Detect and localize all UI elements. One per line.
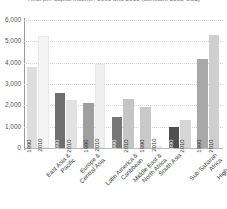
y-axis-tick-label: 0 [17,145,21,151]
y-axis-tick-label: 3,000 [5,81,21,87]
gridline [24,41,223,42]
chart-title: Real per capita income, 1990 and 2010 (c… [28,0,200,2]
bar: 2010 [152,146,163,148]
gridline [24,84,223,85]
bar-year-label: 1990 [54,139,60,152]
bar: 1990 [83,103,94,148]
bar: 1990 [55,93,66,148]
category-label: East Asia &Pacific [45,152,76,183]
bar: 2010 [95,64,106,148]
bar-year-label: 1990 [26,139,32,152]
bar: 1990 [112,117,123,148]
y-axis-tick-label: 6,000 [5,17,21,23]
bar: 1990 [140,107,151,148]
bar: 1990 [197,59,208,148]
gridline [24,20,223,21]
bar-year-label: 2010 [37,138,43,151]
category-label: Europe &Central Asia [74,152,107,185]
category-label: Sub-SaharanAfrica [188,152,223,187]
y-axis-tick-label: 5,000 [5,38,21,44]
bar-year-label: 2010 [94,138,100,151]
bar: 2010 [123,99,134,148]
bar-year-label: 1990 [139,139,145,152]
bar-year-label: 2010 [123,139,129,152]
bar: 2010 [209,35,220,148]
bar-year-label: 1990 [83,139,89,152]
bar-year-label: 1990 [196,139,202,152]
bar: 2010 [38,36,49,148]
y-axis-tick-label: 4,000 [5,59,21,65]
y-axis-tick-label: 2,000 [5,102,21,108]
bar: 1990 [169,127,180,148]
bar-year-label: 1990 [168,139,174,152]
bar-chart: Real per capita income, 1990 and 2010 (c… [0,0,227,209]
bar: 2010 [66,100,77,148]
bar: 1990 [27,67,38,148]
bar: 2010 [180,120,191,148]
y-axis-tick-label: 1,000 [5,123,21,129]
bar-year-label: 1990 [111,139,117,152]
plot-area: 01,0002,0003,0004,0005,0006,000 19902010… [24,20,223,148]
bar-year-label: 2010 [151,138,157,151]
bar-year-label: 2010 [179,139,185,152]
gridline [24,63,223,64]
